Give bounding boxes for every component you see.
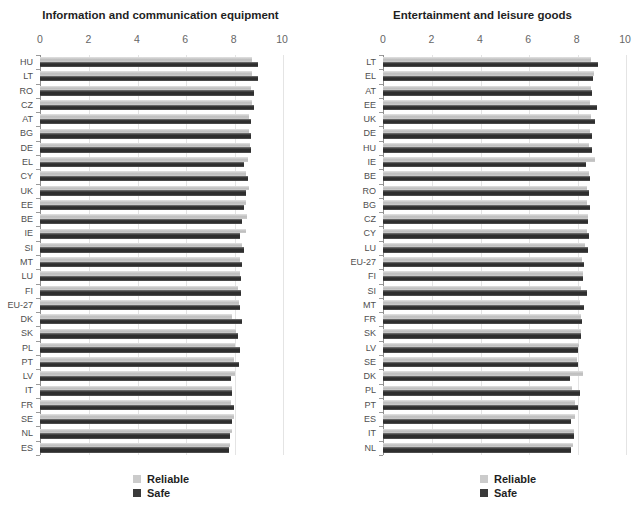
x-tick-label: 2 [85, 33, 91, 45]
bar-safe [40, 333, 238, 338]
bar-pair [40, 269, 282, 283]
bar-pair [383, 326, 625, 340]
bar-row: SI [322, 284, 643, 298]
bar-row: CZ [0, 98, 321, 112]
bar-row: LV [322, 341, 643, 355]
bar-row: LV [0, 369, 321, 383]
bar-pair [383, 255, 625, 269]
category-label: RO [0, 84, 40, 98]
category-label: IT [0, 383, 40, 397]
category-label: SI [322, 284, 383, 298]
bar-row: EE [0, 198, 321, 212]
category-label: IT [322, 426, 383, 440]
bar-safe [40, 133, 251, 138]
bar-row: IE [322, 155, 643, 169]
bar-row: SE [0, 412, 321, 426]
category-label: DK [322, 369, 383, 383]
bar-safe [40, 362, 239, 367]
chart-information-communication-equipment: Information and communication equipment … [0, 0, 321, 511]
bar-pair [40, 112, 282, 126]
bar-row: SE [322, 355, 643, 369]
category-label: MT [0, 255, 40, 269]
bar-safe [383, 247, 588, 252]
category-label: NL [0, 426, 40, 440]
category-label: SK [0, 326, 40, 340]
bar-row: HU [322, 141, 643, 155]
bar-row: LT [0, 69, 321, 83]
bar-safe [40, 119, 251, 124]
bar-pair [383, 269, 625, 283]
bar-safe [40, 405, 234, 410]
category-label: BE [322, 169, 383, 183]
bar-row: CY [322, 226, 643, 240]
bar-row: UK [0, 184, 321, 198]
category-label: IE [322, 155, 383, 169]
bar-safe [40, 419, 232, 424]
legend-item-safe: Safe [133, 486, 189, 500]
category-label: DE [322, 126, 383, 140]
bar-row: HU [0, 55, 321, 69]
x-axis: 0246810 [40, 33, 282, 46]
bar-safe [40, 290, 241, 295]
category-label: EE [0, 198, 40, 212]
bar-row: RO [0, 84, 321, 98]
bar-pair [40, 69, 282, 83]
bar-pair [383, 126, 625, 140]
category-label: EL [322, 69, 383, 83]
category-label: FR [322, 312, 383, 326]
chart-title: Entertainment and leisure goods [322, 9, 643, 21]
bar-pair [383, 212, 625, 226]
bar-pair [383, 298, 625, 312]
bar-rows: LTELATEEUKDEHUIEBEROBGCZCYLUEU-27FISIMTF… [322, 55, 643, 455]
bar-safe [383, 162, 586, 167]
safe-swatch-icon [480, 489, 488, 497]
bar-pair [383, 341, 625, 355]
bar-row: IE [0, 226, 321, 240]
category-label: LT [322, 55, 383, 69]
plot-area: HULTROCZATBGDEELCYUKEEBEIESIMTLUFIEU-27D… [0, 55, 321, 455]
bar-safe [383, 290, 587, 295]
category-label: FI [322, 269, 383, 283]
x-axis: 0246810 [383, 33, 625, 46]
bar-pair [40, 398, 282, 412]
category-label: SI [0, 241, 40, 255]
bar-safe [40, 105, 254, 110]
bar-pair [40, 426, 282, 440]
bar-row: FR [322, 312, 643, 326]
category-label: BG [322, 198, 383, 212]
bar-safe [383, 76, 593, 81]
bar-safe [383, 105, 597, 110]
bar-safe [383, 305, 584, 310]
safe-swatch-icon [133, 489, 141, 497]
bar-safe [383, 405, 578, 410]
bar-pair [40, 184, 282, 198]
bar-pair [383, 84, 625, 98]
bar-safe [383, 176, 590, 181]
bar-safe [383, 419, 571, 424]
bar-row: SI [0, 241, 321, 255]
bar-safe [40, 319, 242, 324]
bar-row: PL [322, 383, 643, 397]
chart-title: Information and communication equipment [0, 9, 321, 21]
category-label: PT [322, 398, 383, 412]
category-label: SE [322, 355, 383, 369]
bar-row: SK [322, 326, 643, 340]
bar-row: EL [322, 69, 643, 83]
bar-pair [40, 326, 282, 340]
bar-row: PL [0, 341, 321, 355]
bar-row: DE [322, 126, 643, 140]
bar-safe [383, 119, 595, 124]
x-tick-label: 10 [276, 33, 288, 45]
bar-pair [383, 398, 625, 412]
bar-pair [383, 383, 625, 397]
bar-row: IT [0, 383, 321, 397]
bar-safe [40, 262, 242, 267]
bar-pair [40, 298, 282, 312]
bar-pair [40, 369, 282, 383]
bar-pair [40, 212, 282, 226]
bar-safe [40, 390, 232, 395]
category-label: LU [0, 269, 40, 283]
bar-pair [383, 169, 625, 183]
bar-safe [383, 447, 571, 452]
category-label: HU [0, 55, 40, 69]
